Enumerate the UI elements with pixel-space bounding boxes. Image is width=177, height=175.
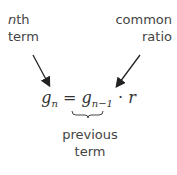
rhs-subscript: n−1 xyxy=(92,98,113,109)
previous-word: previous xyxy=(55,126,125,143)
arrow-common-ratio xyxy=(117,55,140,86)
previous-term-word: term xyxy=(55,143,125,160)
arrow-nth-term xyxy=(33,55,49,85)
previous-term-label: previous term xyxy=(55,126,125,160)
lhs-subscript: n xyxy=(51,98,57,109)
equals-sign: = xyxy=(63,88,76,107)
multiply-dot: · xyxy=(118,88,123,107)
ratio-r: r xyxy=(128,88,136,107)
rhs-g: g xyxy=(81,88,91,107)
recursive-formula: gn = gn−1 · r xyxy=(0,88,177,109)
lhs-g: g xyxy=(41,88,51,107)
underbrace xyxy=(72,111,103,118)
